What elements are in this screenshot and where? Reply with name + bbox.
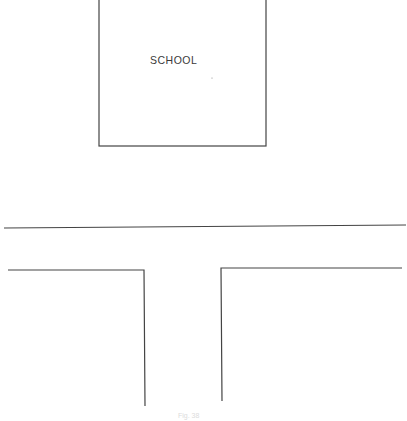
school-building: [99, 0, 266, 146]
figure-caption: Fig. 38: [178, 412, 200, 420]
road-left-corner: [8, 270, 145, 406]
road-right-corner: [221, 268, 402, 401]
school-label: SCHOOL: [150, 54, 197, 66]
site-diagram: SCHOOL Fig. 38: [0, 0, 407, 421]
road-top-edge: [4, 225, 406, 228]
dot-mark: [211, 77, 212, 78]
